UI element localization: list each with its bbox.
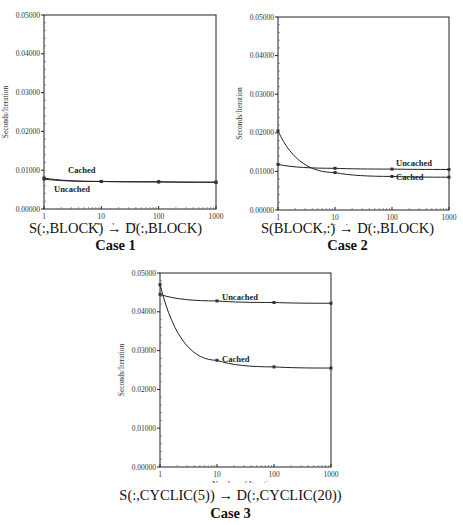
y-tick-label: 0.05000 [16, 11, 41, 20]
series-label: Uncached [222, 292, 258, 302]
y-tick-label: 0.00000 [250, 206, 275, 215]
chart-plot: 0.000000.010000.020000.030000.040000.050… [232, 0, 463, 225]
chart-subtitle: Case 2 [232, 237, 463, 253]
y-tick-label: 0.01000 [250, 167, 275, 176]
data-point-marker [277, 129, 280, 132]
chart-title: S(BLOCK,:) → D(:,BLOCK) [232, 220, 463, 236]
series-label: Cached [396, 172, 424, 182]
chart-case-1: 0.000000.010000.020000.030000.040000.050… [0, 0, 231, 255]
chart-case-2: 0.000000.010000.020000.030000.040000.050… [232, 0, 463, 255]
data-point-marker [273, 365, 276, 368]
y-axis-label: Seconds/Iteration [1, 86, 10, 139]
data-point-marker [391, 175, 394, 178]
y-axis-label: Seconds/Iteration [117, 344, 126, 397]
data-point-marker [277, 163, 280, 166]
series-line-cached [278, 131, 449, 177]
chart-case-3: 0.000000.010000.020000.030000.040000.050… [115, 258, 346, 525]
series-label: Cached [68, 165, 96, 175]
y-tick-label: 0.01000 [16, 166, 41, 175]
data-point-marker [334, 167, 337, 170]
series-line-uncached [44, 179, 216, 182]
y-tick-label: 0.00000 [132, 463, 157, 472]
y-tick-label: 0.04000 [132, 307, 157, 316]
data-point-marker [273, 301, 276, 304]
y-tick-label: 0.03000 [16, 88, 41, 97]
data-point-marker [159, 283, 162, 286]
y-tick-label: 0.04000 [16, 49, 41, 58]
y-tick-label: 0.02000 [250, 128, 275, 137]
y-tick-label: 0.00000 [16, 205, 41, 214]
chart-subtitle: Case 3 [115, 505, 346, 521]
data-point-marker [215, 181, 218, 184]
data-point-marker [391, 168, 394, 171]
y-tick-label: 0.05000 [250, 13, 275, 22]
y-axis-label: Seconds/Iteration [235, 87, 244, 140]
data-point-marker [43, 178, 46, 181]
y-tick-label: 0.05000 [132, 269, 157, 278]
data-point-marker [159, 293, 162, 296]
y-tick-label: 0.04000 [250, 51, 275, 60]
chart-plot: 0.000000.010000.020000.030000.040000.050… [0, 0, 231, 225]
x-axis-label: Number of Iterations [212, 480, 279, 483]
x-tick-label: 1 [158, 470, 162, 479]
y-tick-label: 0.03000 [250, 90, 275, 99]
data-point-marker [216, 359, 219, 362]
y-tick-label: 0.03000 [132, 346, 157, 355]
data-point-marker [330, 367, 333, 370]
series-label: Cached [222, 354, 250, 364]
y-tick-label: 0.01000 [132, 424, 157, 433]
chart-subtitle: Case 1 [0, 237, 231, 253]
data-point-marker [157, 180, 160, 183]
data-point-marker [100, 180, 103, 183]
data-point-marker [448, 168, 451, 171]
chart-title: S(:,BLOCK) → D(:,BLOCK) [0, 220, 231, 236]
plot-frame [44, 15, 216, 209]
x-tick-label: 100 [268, 470, 280, 479]
chart-plot: 0.000000.010000.020000.030000.040000.050… [115, 258, 346, 483]
series-label: Uncached [396, 158, 432, 168]
chart-title: S(:,CYCLIC(5)) → D(:,CYCLIC(20)) [115, 487, 346, 503]
data-point-marker [330, 302, 333, 305]
series-label: Uncached [54, 184, 90, 194]
data-point-marker [448, 176, 451, 179]
y-tick-label: 0.02000 [132, 385, 157, 394]
y-tick-label: 0.02000 [16, 127, 41, 136]
x-tick-label: 10 [213, 470, 221, 479]
data-point-marker [334, 171, 337, 174]
x-tick-label: 1000 [324, 470, 339, 479]
data-point-marker [216, 299, 219, 302]
